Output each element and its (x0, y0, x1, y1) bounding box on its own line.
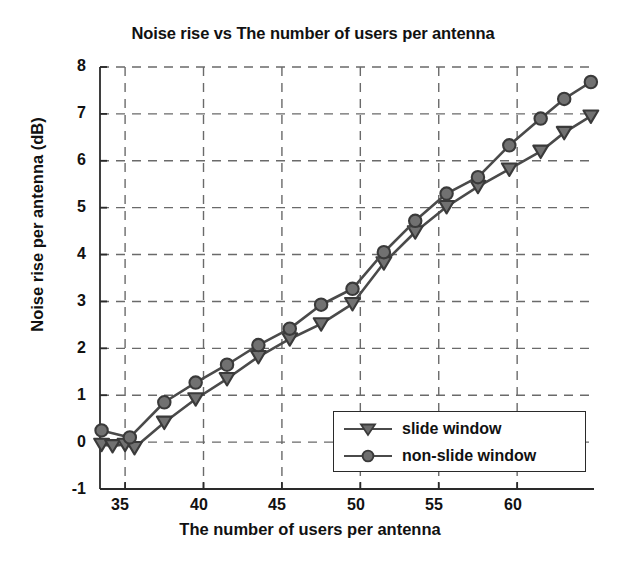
circle-marker (503, 139, 515, 151)
chart-figure: Noise rise vs The number of users per an… (0, 0, 626, 568)
circle-marker (189, 376, 201, 388)
plot-area (0, 0, 626, 568)
circle-marker (440, 187, 452, 199)
data-series-layer (94, 76, 598, 455)
triangle-down-marker (583, 110, 598, 122)
circle-marker (558, 93, 570, 105)
circle-marker (346, 283, 358, 295)
circle-marker (95, 424, 107, 436)
circle-marker (409, 215, 421, 227)
legend: slide window non-slide window (333, 411, 586, 472)
circle-marker (315, 299, 327, 311)
triangle-down-marker (502, 163, 517, 175)
series-non-slide-window (95, 76, 597, 444)
circle-marker (585, 76, 597, 88)
triangle-down-marker (314, 318, 329, 330)
circle-icon (342, 445, 394, 467)
circle-marker (534, 112, 546, 124)
legend-label-non-slide-window: non-slide window (402, 447, 536, 465)
legend-label-slide-window: slide window (402, 420, 502, 438)
triangle-down-marker (533, 146, 548, 158)
circle-marker (378, 246, 390, 258)
circle-marker (252, 339, 264, 351)
circle-marker (284, 322, 296, 334)
circle-marker (158, 396, 170, 408)
circle-marker (472, 171, 484, 183)
legend-item-non-slide-window: non-slide window (342, 443, 536, 469)
circle-marker (221, 359, 233, 371)
circle-marker (124, 431, 136, 443)
legend-item-slide-window: slide window (342, 416, 502, 442)
triangle-down-icon (342, 418, 394, 440)
